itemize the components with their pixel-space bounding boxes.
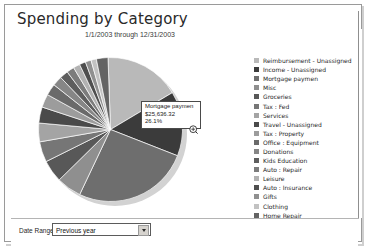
legend-item[interactable]: Mortgage paymen <box>254 74 359 83</box>
legend-swatch-icon <box>254 194 259 199</box>
legend-swatch-icon <box>254 122 259 127</box>
date-range-label: Date Range: <box>19 227 56 234</box>
legend-item-label: Reimbursement - Unassigned <box>263 57 352 64</box>
legend-item[interactable]: Donations <box>254 147 359 156</box>
screenshot-root: Spending by Category 1/1/2003 through 12… <box>0 0 369 249</box>
legend-item-label: Donations <box>263 148 293 155</box>
legend-item[interactable]: Reimbursement - Unassigned <box>254 56 359 65</box>
legend-swatch-icon <box>254 58 259 63</box>
legend-item-label: Income - Unassigned <box>263 66 326 73</box>
date-range-value: Previous year <box>56 227 96 234</box>
pie-slices[interactable] <box>38 57 183 202</box>
page-title: Spending by Category <box>17 10 188 28</box>
legend-item[interactable]: Leisure <box>254 174 359 183</box>
chevron-down-icon[interactable] <box>138 225 149 236</box>
legend-item[interactable]: Groceries <box>254 92 359 101</box>
date-range-select[interactable]: Previous year <box>52 223 151 236</box>
tooltip-amount: $25,636.32 <box>145 111 197 119</box>
pie-svg[interactable] <box>38 57 183 202</box>
legend-item[interactable]: Clothing <box>254 202 359 211</box>
legend-item[interactable]: Services <box>254 111 359 120</box>
legend-item-label: Mortgage paymen <box>263 75 318 82</box>
footer-bar: Date Range: Previous year <box>11 219 358 246</box>
magnifier-plus-cursor <box>189 125 198 134</box>
legend-item-label: Groceries <box>263 93 292 100</box>
legend-item[interactable]: Income - Unassigned <box>254 65 359 74</box>
legend-item-label: Kids Education <box>263 157 307 164</box>
legend-item[interactable]: Gifts <box>254 192 359 201</box>
legend-swatch-icon <box>254 85 259 90</box>
legend-swatch-icon <box>254 131 259 136</box>
chart-panel: 1/1/2003 through 12/31/2003 Mortgage pay… <box>10 29 362 218</box>
legend-item-label: Leisure <box>263 175 285 182</box>
chart-legend: Reimbursement - UnassignedIncome - Unass… <box>254 56 359 218</box>
legend-item-label: Misc <box>263 84 276 91</box>
tooltip-category: Mortgage paymen <box>145 103 197 111</box>
legend-swatch-icon <box>254 94 259 99</box>
legend-item-label: Auto : Insurance <box>263 184 312 191</box>
report-window: Spending by Category 1/1/2003 through 12… <box>4 4 362 242</box>
legend-item[interactable]: Tax : Property <box>254 129 359 138</box>
legend-swatch-icon <box>254 213 259 218</box>
legend-swatch-icon <box>254 104 259 109</box>
legend-swatch-icon <box>254 113 259 118</box>
legend-item-label: Gifts <box>263 193 277 200</box>
pie-chart[interactable] <box>38 57 188 207</box>
legend-item[interactable]: Auto : Repair <box>254 165 359 174</box>
chart-subtitle: 1/1/2003 through 12/31/2003 <box>10 31 250 38</box>
legend-item-label: Tax : Property <box>263 130 304 137</box>
legend-item-label: Tax : Fed <box>263 103 289 110</box>
legend-item[interactable]: Home Repair <box>254 211 359 218</box>
window-shadow-right <box>362 6 364 244</box>
legend-swatch-icon <box>254 67 259 72</box>
legend-swatch-icon <box>254 185 259 190</box>
legend-swatch-icon <box>254 140 259 145</box>
legend-swatch-icon <box>254 76 259 81</box>
legend-item[interactable]: Travel - Unassigned <box>254 120 359 129</box>
legend-item-label: Services <box>263 112 288 119</box>
panel-divider-vertical <box>358 11 359 218</box>
legend-item-label: Office : Equipment <box>263 139 319 146</box>
legend-item[interactable]: Misc <box>254 83 359 92</box>
legend-swatch-icon <box>254 204 259 209</box>
legend-item[interactable]: Office : Equipment <box>254 138 359 147</box>
legend-item-label: Travel - Unassigned <box>263 121 322 128</box>
legend-swatch-icon <box>254 176 259 181</box>
legend-item-label: Auto : Repair <box>263 166 302 173</box>
legend-swatch-icon <box>254 167 259 172</box>
legend-item[interactable]: Auto : Insurance <box>254 183 359 192</box>
legend-swatch-icon <box>254 158 259 163</box>
legend-item-label: Clothing <box>263 203 288 210</box>
legend-swatch-icon <box>254 149 259 154</box>
legend-item[interactable]: Tax : Fed <box>254 101 359 110</box>
legend-item[interactable]: Kids Education <box>254 156 359 165</box>
